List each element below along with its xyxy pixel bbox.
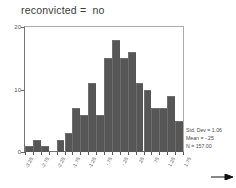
x-tick-mark [120,152,121,155]
x-tick-label: -1.25 [87,156,98,169]
x-tick-label: .75 [152,156,161,165]
stat-mean: Mean = -.25 [186,134,234,142]
x-tick-mark [167,152,168,155]
x-tick-label: -2.75 [39,156,50,169]
x-tick-label: 1.25 [167,156,177,167]
stat-std-dev: Std. Dev = 1.06 [186,126,234,134]
histogram-bar [57,140,65,153]
statistics-box: Std. Dev = 1.06 Mean = -.25 N = 157.00 [186,126,234,151]
chart-title: reconvicted = no [21,4,105,16]
x-tick-mark [159,152,160,155]
x-tick-mark [57,152,58,155]
histogram-bar [112,40,120,153]
histogram-bar [144,90,152,153]
x-tick-mark [175,152,176,155]
x-tick-mark [65,152,66,155]
x-tick-mark [96,152,97,155]
x-tick-mark [104,152,105,155]
x-tick-mark [144,152,145,155]
histogram-bar [33,140,41,153]
x-tick-label: -.75 [104,156,113,166]
x-tick-label: -3.25 [24,156,35,169]
x-tick-label: 1.75 [182,156,192,167]
x-tick-mark [33,152,34,155]
histogram-bar [120,58,128,152]
stat-n: N = 157.00 [186,142,234,150]
y-axis: 01020 [0,0,24,188]
histogram-bar [88,83,96,152]
y-tick-label: 20 [14,24,21,30]
histogram-bar [72,108,80,152]
arrow-marker-icon [211,174,233,180]
x-tick-label: -2.25 [55,156,66,169]
x-tick-mark [128,152,129,155]
histogram-bar [167,96,175,152]
histogram-bar [136,83,144,152]
x-tick-mark [80,152,81,155]
x-tick-mark [72,152,73,155]
x-axis: -3.25-2.75-2.25-1.75-1.25-.75-.25.25.751… [25,152,185,188]
y-tick-label: 10 [14,87,21,93]
x-tick-mark [183,152,184,155]
histogram-bar [65,133,73,152]
x-tick-mark [25,152,26,155]
x-tick-mark [112,152,113,155]
x-tick-mark [41,152,42,155]
histogram-chart: reconvicted = no 01020 -3.25-2.75-2.25-1… [0,0,236,188]
x-tick-label: -.25 [120,156,129,166]
histogram-bar [175,121,183,152]
histogram-bar [159,108,167,152]
x-tick-label: -1.75 [71,156,82,169]
x-tick-mark [151,152,152,155]
histogram-bar [104,58,112,152]
x-tick-label: .25 [136,156,145,165]
histogram-bar [128,52,136,152]
x-tick-mark [136,152,137,155]
histogram-bar [151,108,159,152]
histogram-bar [96,115,104,153]
x-tick-mark [49,152,50,155]
bars-layer [25,27,183,152]
x-tick-mark [88,152,89,155]
histogram-bar [80,115,88,153]
